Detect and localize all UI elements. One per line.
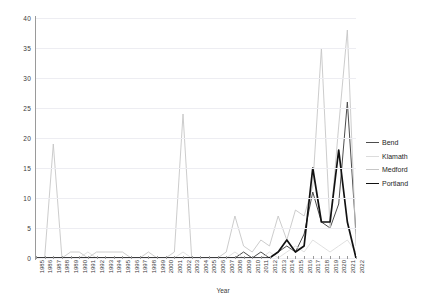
x-axis-tick (122, 256, 123, 259)
y-axis-tick-labels: 0510152025303540 (0, 18, 31, 258)
x-axis-tick-label: 1989 (73, 260, 79, 273)
legend-item-portland[interactable]: Portland (366, 177, 444, 191)
x-axis-tick (261, 256, 262, 259)
x-axis-tick-label: 2014 (289, 260, 295, 273)
plot-area (36, 18, 356, 258)
x-axis-tick (140, 256, 141, 259)
grid-line (36, 138, 356, 139)
legend-swatch-icon (366, 183, 379, 184)
grid-line (36, 198, 356, 199)
grid-line (36, 168, 356, 169)
x-axis-title: Year (0, 287, 446, 294)
x-axis-tick (53, 256, 54, 259)
x-axis-tick-label: 2012 (272, 260, 278, 273)
x-axis-tick-label: 2007 (229, 260, 235, 273)
x-axis-tick (226, 256, 227, 259)
x-axis-tick (148, 256, 149, 259)
x-axis-tick-label: 2018 (324, 260, 330, 273)
y-axis-tick-label: 0 (27, 255, 31, 262)
legend-label: Portland (382, 180, 408, 187)
x-axis-tick (321, 256, 322, 259)
legend-item-klamath[interactable]: Klamath (366, 150, 444, 164)
x-axis-tick-label: 1997 (142, 260, 148, 273)
grid-line (36, 18, 356, 19)
y-axis-tick-label: 40 (23, 15, 31, 22)
x-axis-tick (304, 256, 305, 259)
legend-label: Medford (382, 166, 408, 173)
x-axis-tick-label: 2021 (350, 260, 356, 273)
x-axis-tick-label: 2017 (315, 260, 321, 273)
x-axis-tick (313, 256, 314, 259)
x-axis-tick-label: 2002 (186, 260, 192, 273)
x-axis-tick (166, 256, 167, 259)
y-axis-tick-label: 25 (23, 105, 31, 112)
legend-swatch-icon (366, 156, 379, 157)
x-axis-tick-label: 2001 (177, 260, 183, 273)
x-axis-tick (88, 256, 89, 259)
legend-label: Klamath (382, 153, 408, 160)
x-axis-tick-label: 2004 (203, 260, 209, 273)
x-axis-tick-label: 1987 (56, 260, 62, 273)
legend-item-bend[interactable]: Bend (366, 136, 444, 150)
x-axis-tick-label: 2019 (333, 260, 339, 273)
x-axis-tick (356, 256, 357, 259)
x-axis-tick-label: 2009 (246, 260, 252, 273)
y-axis-tick-label: 30 (23, 75, 31, 82)
x-axis-tick (339, 256, 340, 259)
x-axis-tick-label: 2000 (168, 260, 174, 273)
y-axis-tick-label: 15 (23, 165, 31, 172)
x-axis-tick-label: 2022 (359, 260, 365, 273)
legend-item-medford[interactable]: Medford (366, 163, 444, 177)
x-axis-tick (192, 256, 193, 259)
x-axis-tick (45, 256, 46, 259)
x-axis-tick-label: 1993 (108, 260, 114, 273)
x-axis-tick (97, 256, 98, 259)
x-axis-tick-label: 2005 (211, 260, 217, 273)
x-axis-tick-label: 2010 (255, 260, 261, 273)
chart-legend: BendKlamathMedfordPortland (366, 136, 444, 190)
x-axis-tick-label: 1986 (47, 260, 53, 273)
x-axis-tick-label: 2003 (194, 260, 200, 273)
x-axis-tick (71, 256, 72, 259)
x-axis-tick (244, 256, 245, 259)
x-axis-tick (174, 256, 175, 259)
x-axis-tick (105, 256, 106, 259)
x-axis-ticks (36, 255, 356, 259)
x-axis-tick-label: 1990 (82, 260, 88, 273)
grid-line (36, 228, 356, 229)
x-axis-tick (114, 256, 115, 259)
x-axis-tick (157, 256, 158, 259)
x-axis-tick (218, 256, 219, 259)
x-axis-tick (235, 256, 236, 259)
grid-line (36, 48, 356, 49)
x-axis-tick (131, 256, 132, 259)
x-axis-tick-label: 1991 (90, 260, 96, 273)
x-axis-tick (270, 256, 271, 259)
x-axis-tick-label: 1992 (99, 260, 105, 273)
legend-swatch-icon (366, 169, 379, 170)
x-axis-tick-label: 2011 (263, 260, 269, 273)
x-axis-tick-label: 1998 (151, 260, 157, 273)
x-axis-tick (295, 256, 296, 259)
x-axis-tick (209, 256, 210, 259)
x-axis-tick (287, 256, 288, 259)
x-axis-tick-label: 2016 (307, 260, 313, 273)
x-axis-tick-label: 1999 (160, 260, 166, 273)
x-axis-tick (79, 256, 80, 259)
x-axis-tick-label: 1995 (125, 260, 131, 273)
x-axis-tick-label: 2008 (237, 260, 243, 273)
y-axis-tick-label: 20 (23, 135, 31, 142)
x-axis-tick (62, 256, 63, 259)
y-axis-tick-label: 35 (23, 45, 31, 52)
grid-line (36, 108, 356, 109)
x-axis-tick-label: 1994 (116, 260, 122, 273)
x-axis-tick-label: 1996 (134, 260, 140, 273)
x-axis-tick-label: 2015 (298, 260, 304, 273)
x-axis-tick-label: 2006 (220, 260, 226, 273)
legend-label: Bend (382, 139, 398, 146)
x-axis-tick-label: 1985 (39, 260, 45, 273)
x-axis-tick (278, 256, 279, 259)
x-axis-tick-label: 2013 (281, 260, 287, 273)
x-axis-tick (252, 256, 253, 259)
x-axis-tick-label: 2020 (341, 260, 347, 273)
